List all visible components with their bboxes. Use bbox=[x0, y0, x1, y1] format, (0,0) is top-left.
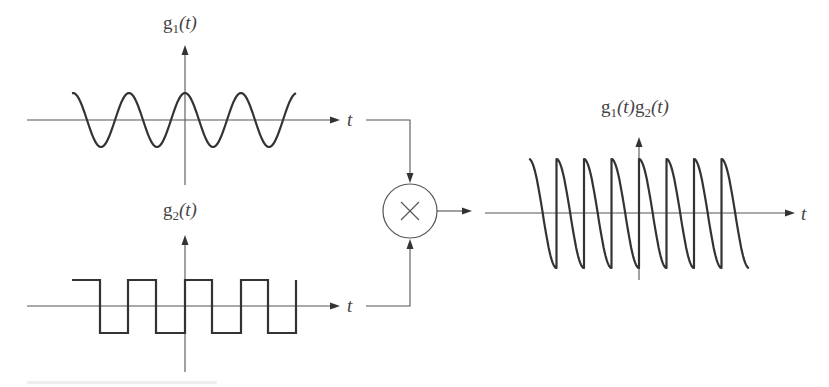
g2-to-multiplier-connector bbox=[366, 247, 410, 306]
g1-plot: g1(t) t bbox=[27, 12, 353, 185]
multiplier-block bbox=[366, 120, 472, 306]
g1-amplitude-axis-arrowhead bbox=[182, 45, 189, 55]
product-amplitude-axis-arrowhead bbox=[636, 137, 643, 147]
g2-time-axis-arrowhead bbox=[330, 303, 340, 310]
g1-to-multiplier-connector bbox=[366, 120, 410, 175]
product-time-label: t bbox=[801, 203, 807, 224]
multiplication-diagram: g1(t) t g2(t) t g1(t)g2(t) t bbox=[0, 0, 829, 387]
product-axis-label: g1(t)g2(t) bbox=[601, 96, 669, 120]
g1-axis-label: g1(t) bbox=[163, 12, 197, 36]
g2-time-label: t bbox=[347, 295, 353, 316]
g2-amplitude-axis-arrowhead bbox=[182, 235, 189, 245]
g2-plot: g2(t) t bbox=[27, 199, 353, 372]
output-connector-arrowhead bbox=[462, 208, 472, 215]
product-plot: g1(t)g2(t) t bbox=[485, 96, 807, 280]
multiply-icon bbox=[401, 202, 419, 220]
figure-caption-faint bbox=[27, 381, 217, 384]
g1-time-label: t bbox=[347, 109, 353, 130]
g1-connector-arrowhead bbox=[407, 173, 414, 183]
product-time-axis-arrowhead bbox=[785, 210, 795, 217]
g2-connector-arrowhead bbox=[407, 239, 414, 249]
g1-time-axis-arrowhead bbox=[330, 117, 340, 124]
g2-axis-label: g2(t) bbox=[163, 199, 197, 223]
